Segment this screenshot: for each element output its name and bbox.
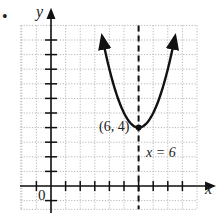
y-axis-label: y bbox=[34, 3, 44, 21]
symmetry-label: x = 6 bbox=[145, 145, 176, 160]
origin-label: 0 bbox=[38, 187, 46, 203]
parabola-graph: • y x 0 (6, 4) x = 6 bbox=[0, 0, 217, 220]
bullet-marker: • bbox=[2, 8, 8, 25]
labels: y x 0 (6, 4) x = 6 bbox=[34, 3, 212, 203]
x-axis-label: x bbox=[204, 180, 212, 197]
vertex-label: (6, 4) bbox=[99, 119, 130, 135]
vertex-point bbox=[136, 125, 142, 131]
svg-text:•: • bbox=[2, 8, 8, 25]
